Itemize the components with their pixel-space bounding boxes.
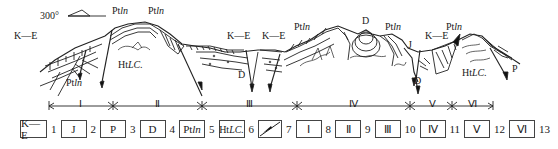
legend-item-ptln: Ptln 5 [179, 120, 215, 138]
legend-item-section-1: Ⅰ 8 [296, 120, 332, 138]
legend-number: 13 [539, 123, 550, 135]
orientation-arrow-icon [68, 10, 106, 16]
legend-number: 3 [130, 123, 136, 135]
legend-item-section-3: Ⅲ 10 [375, 120, 416, 138]
orientation-label: 300° [40, 11, 59, 21]
legend-item-p: P 3 [100, 120, 136, 138]
section-label-4: Ⅳ [349, 99, 358, 109]
legend-item-j: J 2 [61, 120, 97, 138]
formation-label-d: D [362, 16, 369, 26]
legend-symbol: Ⅴ [464, 120, 490, 138]
legend-symbol: Ⅰ [296, 120, 322, 138]
section-label-5: Ⅴ [429, 99, 436, 109]
legend-number: 2 [91, 123, 97, 135]
formation-label-htlc: HtLC. [462, 68, 487, 78]
formation-label-p: P [512, 64, 518, 74]
legend-symbol: Ⅵ [509, 120, 535, 138]
formation-label-ptln: Ptln [112, 6, 128, 16]
legend-symbol: Ⅲ [375, 120, 401, 138]
section-label-2: Ⅱ [155, 99, 160, 109]
legend-symbol: Ⅱ [335, 120, 361, 138]
formation-label-ptln: Ptln [294, 22, 310, 32]
formation-label-ptln: Ptln [385, 22, 401, 32]
legend-item-section-6: Ⅵ 13 [509, 120, 550, 138]
legend-item-ke: K—E 1 [20, 120, 57, 138]
legend-item-htlc: HtLC. 6 [219, 120, 255, 138]
fault-icon [258, 120, 282, 138]
formation-label-d: D [414, 76, 421, 86]
legend-number: 10 [405, 123, 416, 135]
section-axis [49, 101, 493, 110]
legend-number: 8 [326, 123, 332, 135]
legend-symbol: HtLC. [219, 120, 245, 138]
section-label-1: Ⅰ [79, 99, 82, 109]
legend-item-section-2: Ⅱ 9 [335, 120, 371, 138]
legend-symbol: J [61, 120, 87, 138]
formation-label-ptln: Ptln [66, 78, 82, 88]
legend-item-section-4: Ⅳ 11 [420, 120, 461, 138]
legend-item-section-5: Ⅴ 12 [464, 120, 505, 138]
formation-label-d: D [238, 70, 245, 80]
legend-number: 9 [365, 123, 371, 135]
legend-symbol: K—E [20, 120, 47, 138]
legend-symbol: Ⅳ [420, 120, 446, 138]
legend: K—E 1 J 2 P 3 D 4 Ptln 5 HtLC. 6 7 Ⅰ 8 Ⅱ… [20, 118, 554, 140]
formation-label-j: J [408, 40, 412, 50]
formation-label-htlc: HtLC. [118, 60, 143, 70]
formation-label-ke: K—E [14, 31, 37, 41]
formation-label-ke: K—E [425, 31, 448, 41]
cross-section-profile [0, 0, 558, 110]
legend-number: 5 [209, 123, 215, 135]
legend-number: 11 [450, 123, 461, 135]
legend-item-fault: 7 [258, 120, 292, 138]
formation-label-ptln: Ptln [446, 22, 462, 32]
legend-number: 6 [249, 123, 255, 135]
legend-symbol: P [100, 120, 126, 138]
formation-label-ke: K—E [262, 31, 285, 41]
formation-label-ptln: Ptln [148, 6, 164, 16]
legend-number: 7 [286, 123, 292, 135]
section-label-3: Ⅲ [246, 99, 253, 109]
legend-symbol: D [140, 120, 166, 138]
legend-number: 12 [494, 123, 505, 135]
legend-number: 1 [51, 123, 57, 135]
legend-item-d: D 4 [140, 120, 176, 138]
formation-label-ke: K—E [227, 31, 250, 41]
legend-symbol: Ptln [179, 120, 205, 138]
legend-number: 4 [170, 123, 176, 135]
section-label-6: Ⅵ [468, 99, 477, 109]
